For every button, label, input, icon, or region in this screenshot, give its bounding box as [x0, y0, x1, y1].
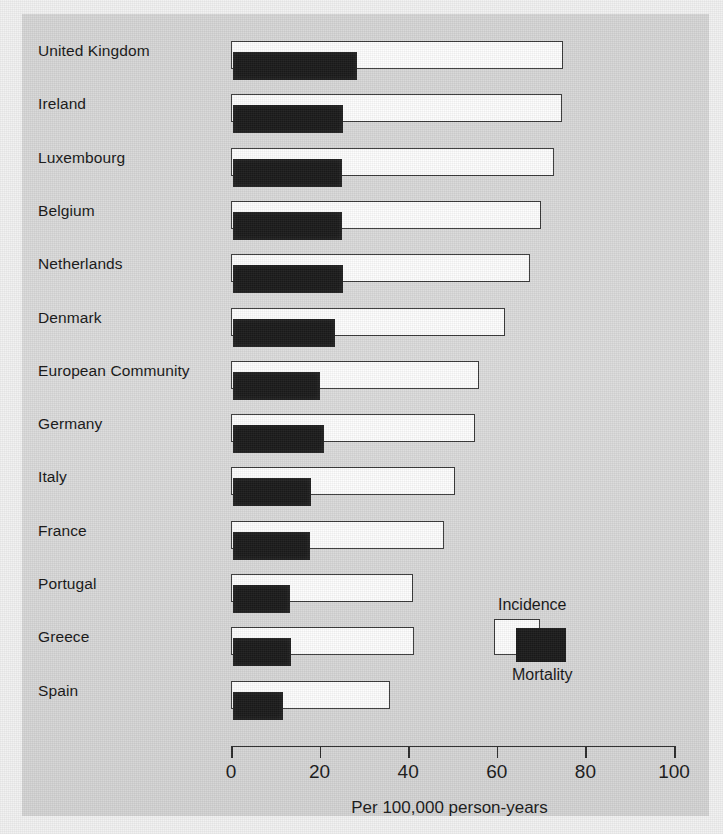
bar-mortality [233, 159, 342, 187]
category-label: Ireland [38, 95, 86, 113]
legend-swatch-mortality [516, 628, 566, 662]
category-label: Spain [38, 682, 78, 700]
bar-mortality [233, 372, 320, 400]
x-axis-tick-label: 60 [486, 761, 507, 783]
x-axis-tick [497, 746, 499, 758]
x-axis-line [231, 746, 674, 748]
x-axis-tick-label: 40 [398, 761, 419, 783]
bar-mortality [233, 52, 357, 80]
bar-mortality [233, 638, 291, 666]
x-axis-title: Per 100,000 person-years [351, 798, 548, 818]
x-axis-tick [674, 746, 676, 758]
bar-mortality [233, 478, 311, 506]
category-label: United Kingdom [38, 42, 150, 60]
category-label: Luxembourg [38, 149, 125, 167]
category-label: European Community [38, 362, 190, 380]
bar-mortality [233, 212, 342, 240]
category-label: Netherlands [38, 255, 123, 273]
x-axis-tick-label: 100 [658, 761, 690, 783]
x-axis-tick-label: 0 [226, 761, 237, 783]
chart-figure: United KingdomIrelandLuxembourgBelgiumNe… [0, 0, 723, 834]
x-axis-tick [231, 746, 233, 758]
category-label: Italy [38, 468, 67, 486]
category-label: Denmark [38, 309, 102, 327]
bar-mortality [233, 532, 310, 560]
category-label: France [38, 522, 87, 540]
category-label: Greece [38, 628, 89, 646]
category-label: Belgium [38, 202, 95, 220]
x-axis-tick-label: 80 [575, 761, 596, 783]
bar-mortality [233, 692, 283, 720]
bar-mortality [233, 425, 324, 453]
x-axis-tick [585, 746, 587, 758]
legend-label-mortality: Mortality [512, 666, 572, 684]
category-label: Germany [38, 415, 102, 433]
category-label: Portugal [38, 575, 97, 593]
x-axis-tick [408, 746, 410, 758]
bar-mortality [233, 319, 335, 347]
plot-area: United KingdomIrelandLuxembourgBelgiumNe… [0, 0, 723, 834]
x-axis-tick [320, 746, 322, 758]
bar-mortality [233, 105, 343, 133]
x-axis-tick-label: 20 [309, 761, 330, 783]
bar-mortality [233, 265, 343, 293]
bar-mortality [233, 585, 290, 613]
legend-label-incidence: Incidence [498, 596, 567, 614]
